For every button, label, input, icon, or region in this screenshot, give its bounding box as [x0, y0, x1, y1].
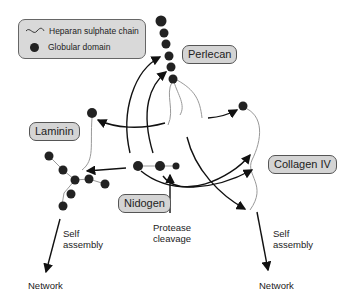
nidogen-molecule	[133, 161, 180, 171]
self-assembly-right-text: Self assembly	[273, 228, 313, 250]
self-left-line1: Self	[63, 228, 103, 239]
protease-line2: cleavage	[153, 233, 191, 244]
protease-cleavage-text: Protease cleavage	[153, 222, 191, 244]
laminin-label: Laminin	[29, 122, 80, 141]
collagen-iv-label: Collagen IV	[268, 155, 337, 174]
network-right-text: Network	[259, 280, 294, 291]
basement-membrane-diagram: Heparan sulphate chain Globular domain P…	[0, 0, 347, 298]
legend: Heparan sulphate chain Globular domain	[18, 19, 146, 59]
self-right-line2: assembly	[273, 239, 313, 250]
wavy-line-icon	[25, 27, 45, 35]
protease-line1: Protease	[153, 222, 191, 233]
perlecan-molecule	[156, 16, 203, 126]
legend-item-globular: Globular domain	[25, 42, 110, 52]
nidogen-label: Nidogen	[118, 194, 171, 213]
self-assembly-left-text: Self assembly	[63, 228, 103, 250]
legend-label: Heparan sulphate chain	[49, 26, 139, 36]
filled-circle-icon	[30, 43, 39, 52]
legend-item-chain: Heparan sulphate chain	[25, 26, 139, 36]
network-left-text: Network	[28, 280, 63, 291]
self-right-line1: Self	[273, 228, 313, 239]
perlecan-label: Perlecan	[182, 45, 237, 64]
legend-label: Globular domain	[48, 42, 110, 52]
self-left-line2: assembly	[63, 239, 103, 250]
